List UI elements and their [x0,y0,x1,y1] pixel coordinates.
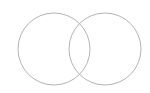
venn-circle-right [69,13,141,85]
venn-diagram [0,0,150,93]
venn-svg [0,0,150,93]
